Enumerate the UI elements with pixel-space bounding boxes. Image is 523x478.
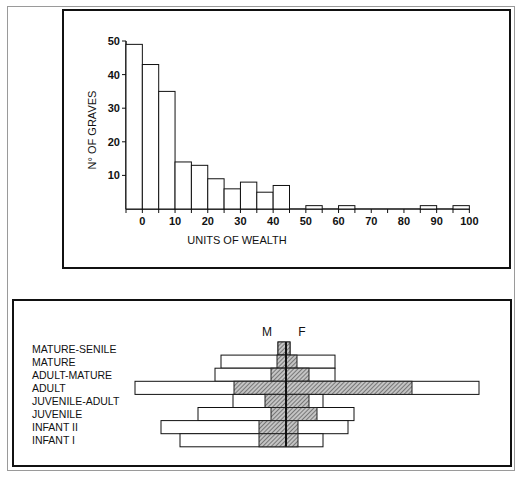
pyramid-row-label: ADULT-MATURE [32, 369, 112, 381]
x-tick-label: 30 [234, 215, 246, 227]
wealth-histogram: 10203040500102030405060708090100 [108, 35, 479, 227]
histogram-bar [224, 189, 240, 209]
histogram-bar [142, 65, 158, 209]
pyramid-sexed-bar [271, 408, 317, 421]
pyramid-sexed-bar [278, 342, 290, 355]
histogram-bar [208, 179, 224, 209]
y-tick-label: 10 [108, 169, 120, 181]
histogram-bar [240, 182, 256, 209]
y-tick-label: 40 [108, 69, 120, 81]
pyramid-male-label: M [262, 325, 272, 339]
x-tick-label: 50 [300, 215, 312, 227]
pyramid-row-label: INFANT I [32, 434, 75, 446]
x-tick-label: 100 [460, 215, 478, 227]
x-tick-label: 80 [398, 215, 410, 227]
y-tick-label: 30 [108, 102, 120, 114]
histogram-bar [126, 44, 142, 209]
histogram-bar [159, 91, 175, 209]
y-tick-label: 50 [108, 35, 120, 47]
pyramid-sexed-bar [259, 421, 298, 434]
x-tick-label: 20 [202, 215, 214, 227]
pyramid-row-label: JUVENILE-ADULT [32, 395, 120, 407]
age-sex-pyramid: MATURE-SENILEMATUREADULT-MATUREADULTJUVE… [32, 342, 479, 447]
histogram-bar [306, 206, 322, 209]
histogram-bar [273, 185, 289, 209]
pyramid-total-bar [161, 421, 348, 434]
charts-canvas: 10203040500102030405060708090100 MATURE-… [0, 0, 523, 478]
pyramid-row-label: JUVENILE [32, 408, 82, 420]
x-tick-label: 40 [267, 215, 279, 227]
x-tick-label: 90 [431, 215, 443, 227]
pyramid-sexed-bar [259, 434, 298, 447]
histogram-bar [257, 192, 273, 209]
pyramid-row-label: MATURE-SENILE [32, 343, 116, 355]
y-tick-label: 20 [108, 136, 120, 148]
pyramid-sexed-bar [234, 381, 412, 394]
x-tick-label: 70 [365, 215, 377, 227]
pyramid-total-bar [180, 434, 323, 447]
pyramid-row-label: ADULT [32, 382, 66, 394]
pyramid-female-label: F [298, 325, 305, 339]
pyramid-row-label: MATURE [32, 356, 76, 368]
y-axis-label: N° OF GRAVES [86, 91, 98, 170]
x-axis-label: UNITS OF WEALTH [187, 234, 286, 246]
histogram-bar [453, 206, 469, 209]
x-tick-label: 0 [139, 215, 145, 227]
histogram-bar [175, 162, 191, 209]
x-tick-label: 10 [169, 215, 181, 227]
pyramid-row-label: INFANT II [32, 421, 78, 433]
x-tick-label: 60 [332, 215, 344, 227]
pyramid-sexed-bar [271, 368, 309, 381]
histogram-bar [339, 206, 355, 209]
histogram-bar [420, 206, 436, 209]
histogram-bar [191, 165, 207, 209]
